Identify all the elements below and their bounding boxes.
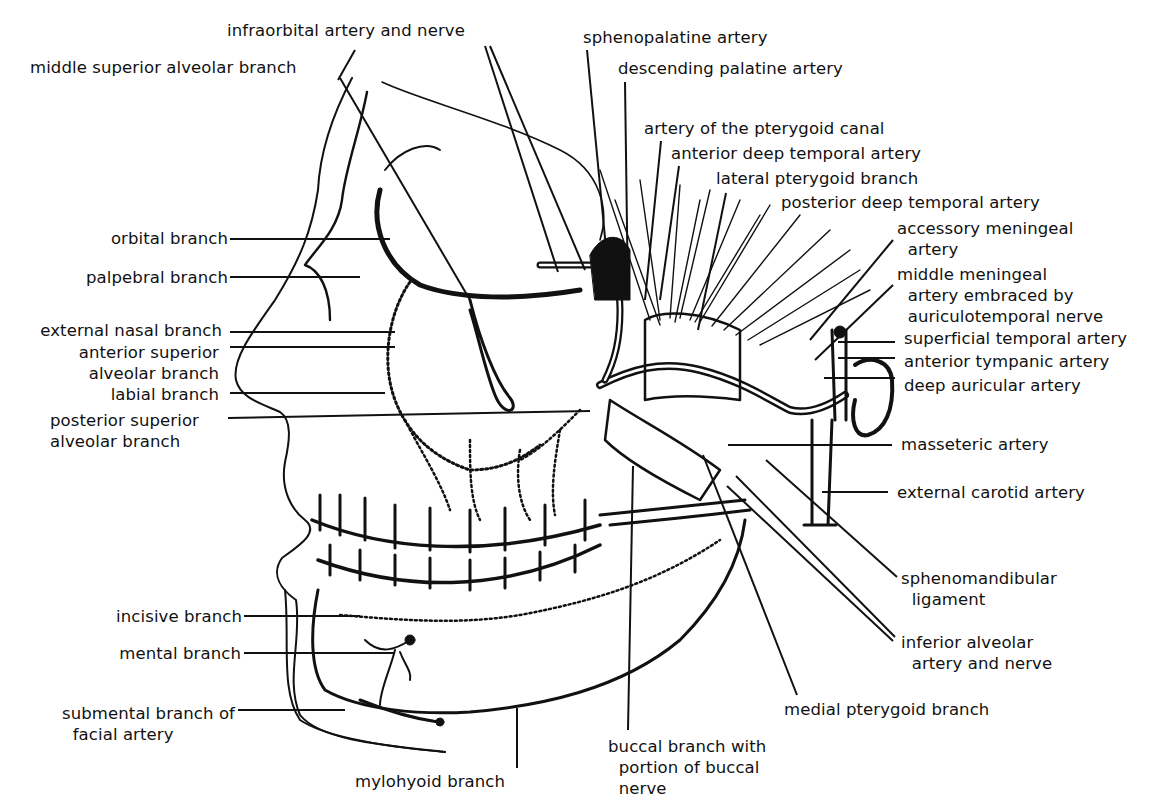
label-line: anterior deep temporal artery [671,143,921,164]
ramus-outline [600,500,750,525]
leader-sphenomandibular [766,460,897,577]
upper-teeth [312,495,600,552]
leader-buccal [628,466,633,730]
label-external-carotid: external carotid artery [897,482,1085,503]
label-medial-pterygoid: medial pterygoid branch [784,699,989,720]
label-middle-meningeal: middle meningeal artery embraced by auri… [897,264,1103,327]
label-line: artery of the pterygoid canal [644,118,885,139]
label-line: superficial temporal artery [904,328,1127,349]
leader-middle-superior-alveolar [340,78,470,300]
label-line: alveolar branch [50,431,199,452]
label-pterygoid-canal: artery of the pterygoid canal [644,118,885,139]
label-line: sphenopalatine artery [583,27,768,48]
leader-pterygoid-canal [645,141,661,300]
leader-middle-superior-alveolar-top [338,50,355,80]
label-line: external carotid artery [897,482,1085,503]
label-line: nerve [608,778,766,799]
mandible-outline [313,520,745,713]
maxillary-artery-trunk [600,366,845,411]
anatomy-diagram: infraorbital artery and nervemiddle supe… [0,0,1167,805]
label-line: artery [897,239,1073,260]
label-line: infraorbital artery and nerve [227,20,465,41]
label-labial: labial branch [111,384,219,405]
label-line: lateral pterygoid branch [716,168,918,189]
label-line: anterior tympanic artery [904,351,1109,372]
alveolar-dotted-branches [405,410,580,520]
label-line: buccal branch with [608,736,766,757]
label-line: orbital branch [111,228,228,249]
label-line: posterior superior [50,410,199,431]
skull-forehead-outline [382,82,604,240]
label-line: artery embraced by [897,285,1103,306]
label-submental: submental branch of facial artery [62,703,235,745]
medial-pterygoid-muscle [605,400,720,500]
leader-inferior-alveolar-2 [727,486,893,641]
label-superficial-temporal: superficial temporal artery [904,328,1127,349]
label-line: mental branch [119,643,241,664]
label-line: auriculotemporal nerve [897,306,1103,327]
label-accessory-meningeal: accessory meningeal artery [897,218,1073,260]
leader-infraorbital [485,46,558,272]
label-line: submental branch of [62,703,235,724]
label-line: masseteric artery [901,434,1049,455]
sphenoid-dark-region [590,237,630,300]
label-sphenomandibular: sphenomandibular ligament [901,568,1057,610]
label-external-nasal: external nasal branch [40,320,222,341]
lower-teeth [318,545,600,590]
label-orbital: orbital branch [111,228,228,249]
label-line: artery and nerve [901,653,1052,674]
superficial-temporal-artery [832,330,846,420]
label-line: middle meningeal [897,264,1103,285]
label-line: labial branch [111,384,219,405]
label-anterior-superior-alveolar: anterior superioralveolar branch [79,342,219,384]
label-line: descending palatine artery [618,58,843,79]
leader-inferior-alveolar [736,476,895,637]
label-line: sphenomandibular [901,568,1057,589]
label-mental: mental branch [119,643,241,664]
label-line: alveolar branch [79,363,219,384]
chin-outline [285,590,445,752]
label-line: posterior deep temporal artery [781,192,1040,213]
label-palpebral: palpebral branch [86,267,228,288]
label-anterior-deep-temporal: anterior deep temporal artery [671,143,921,164]
maxillary-sinus-outline [388,282,540,470]
label-line: inferior alveolar [901,632,1052,653]
label-infraorbital: infraorbital artery and nerve [227,20,465,41]
label-line: palpebral branch [86,267,228,288]
leader-infraorbital-2 [490,46,585,270]
zygomatic-body [470,300,513,410]
label-line: facial artery [62,724,235,745]
label-line: deep auricular artery [904,375,1081,396]
label-anterior-tympanic: anterior tympanic artery [904,351,1109,372]
label-line: external nasal branch [40,320,222,341]
label-middle-superior-alveolar: middle superior alveolar branch [30,57,297,78]
label-line: accessory meningeal [897,218,1073,239]
label-posterior-superior-alveolar: posterior superioralveolar branch [50,410,199,452]
label-line: middle superior alveolar branch [30,57,297,78]
label-buccal: buccal branch with portion of buccal ner… [608,736,766,799]
label-incisive: incisive branch [116,606,242,627]
orbit-shading [385,146,440,170]
lateral-pterygoid-muscle [645,313,740,400]
label-inferior-alveolar: inferior alveolar artery and nerve [901,632,1052,674]
label-mylohyoid: mylohyoid branch [355,771,505,792]
label-line: mylohyoid branch [355,771,505,792]
label-masseteric: masseteric artery [901,434,1049,455]
label-posterior-deep-temporal: posterior deep temporal artery [781,192,1040,213]
leader-middle-meningeal [815,285,893,360]
ear-canal [853,360,892,435]
label-line: portion of buccal [608,757,766,778]
label-sphenopalatine: sphenopalatine artery [583,27,768,48]
label-line: anterior superior [79,342,219,363]
mental-branch-twigs [365,640,410,705]
label-line: ligament [901,589,1057,610]
label-deep-auricular: deep auricular artery [904,375,1081,396]
leader-lateral-pterygoid [698,193,726,330]
label-line: incisive branch [116,606,242,627]
label-lateral-pterygoid: lateral pterygoid branch [716,168,918,189]
label-descending-palatine: descending palatine artery [618,58,843,79]
label-line: medial pterygoid branch [784,699,989,720]
